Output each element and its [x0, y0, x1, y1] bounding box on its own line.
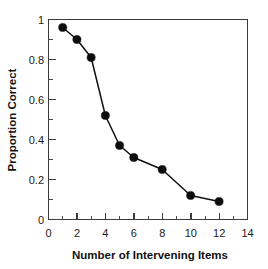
y-tick-label: 0.2	[29, 174, 44, 186]
data-point	[87, 53, 95, 61]
x-tick-labels: 0 2 4 6 8 10 12 14	[45, 227, 253, 239]
data-point	[73, 35, 81, 43]
x-tick-label: 4	[102, 227, 108, 239]
x-tick-label: 8	[159, 227, 165, 239]
series-markers	[59, 23, 224, 205]
x-tick-label: 10	[185, 227, 197, 239]
x-tick-label: 12	[213, 227, 225, 239]
data-point	[115, 141, 123, 149]
series-line	[63, 28, 219, 202]
chart-figure: 1 0.8 0.6 0.4 0.2 0 0 2 4 6 8 10 12 14 N…	[0, 0, 268, 269]
data-point	[130, 153, 138, 161]
y-tick-label: 1	[38, 14, 44, 26]
y-tick-label: 0.4	[29, 134, 44, 146]
x-tick-label: 6	[131, 227, 137, 239]
x-axis-title: Number of Intervening Items	[72, 249, 228, 261]
y-tick-label: 0.6	[29, 94, 44, 106]
data-point	[101, 111, 109, 119]
data-point	[158, 165, 166, 173]
y-axis-title: Proportion Correct	[6, 68, 18, 171]
data-point	[187, 191, 195, 199]
data-point	[215, 197, 223, 205]
line-chart: 1 0.8 0.6 0.4 0.2 0 0 2 4 6 8 10 12 14 N…	[0, 0, 268, 269]
y-tick-label: 0.8	[29, 54, 44, 66]
data-point	[59, 23, 67, 31]
data-series-proportion-correct	[59, 23, 224, 205]
x-tick-label: 14	[241, 227, 253, 239]
x-tick-label: 0	[45, 227, 51, 239]
y-tick-labels: 1 0.8 0.6 0.4 0.2 0	[29, 14, 44, 226]
plot-frame	[49, 20, 248, 220]
x-tick-label: 2	[74, 227, 80, 239]
y-tick-label: 0	[38, 214, 44, 226]
